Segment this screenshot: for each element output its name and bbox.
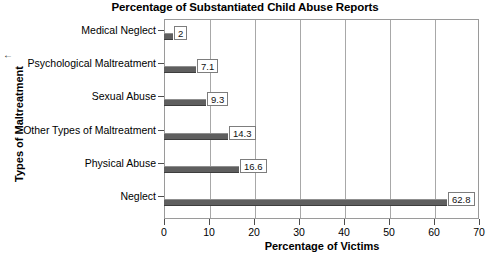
x-axis-tick bbox=[344, 219, 345, 225]
x-axis-tick-label: 50 bbox=[374, 226, 404, 238]
y-axis-category-label: Physical Abuse bbox=[85, 157, 156, 170]
y-axis-tick bbox=[158, 96, 164, 97]
bar-value-label: 2 bbox=[174, 26, 187, 40]
y-axis-tick bbox=[158, 130, 164, 131]
bars-layer: 27.19.314.316.662.8 bbox=[164, 19, 480, 219]
stray-arrow-icon: ← bbox=[3, 50, 13, 60]
x-axis-tick-label: 70 bbox=[464, 226, 490, 238]
y-axis-tick bbox=[158, 63, 164, 64]
bar-value-label: 62.8 bbox=[448, 192, 475, 206]
y-axis-category-label: Medical Neglect bbox=[81, 24, 156, 37]
x-axis-tick-label: 0 bbox=[149, 226, 179, 238]
bar-value-label: 14.3 bbox=[229, 126, 256, 140]
bar bbox=[164, 99, 206, 106]
bar-row: 7.1 bbox=[164, 55, 480, 83]
x-axis-tick-label: 60 bbox=[419, 226, 449, 238]
x-axis-tick bbox=[254, 219, 255, 225]
bar-row: 2 bbox=[164, 22, 480, 50]
bar-row: 9.3 bbox=[164, 88, 480, 116]
x-axis-tick bbox=[164, 219, 165, 225]
x-axis-title: Percentage of Victims bbox=[164, 240, 480, 252]
y-axis-category-label: Neglect bbox=[120, 190, 156, 203]
x-axis-tick-label: 40 bbox=[329, 226, 359, 238]
bar-value-label: 16.6 bbox=[240, 159, 267, 173]
x-axis-tick-label: 30 bbox=[284, 226, 314, 238]
y-axis-tick bbox=[158, 30, 164, 31]
y-axis-tick bbox=[158, 196, 164, 197]
y-axis-tick bbox=[158, 163, 164, 164]
y-axis-category-label: Sexual Abuse bbox=[92, 90, 156, 103]
bar-value-label: 7.1 bbox=[197, 59, 218, 73]
x-axis-tick bbox=[299, 219, 300, 225]
bar bbox=[164, 133, 228, 140]
bar bbox=[164, 33, 173, 40]
bar bbox=[164, 66, 196, 73]
bar-row: 14.3 bbox=[164, 122, 480, 150]
bar-row: 16.6 bbox=[164, 155, 480, 183]
y-axis-category-label: Other Types of Maltreatment bbox=[23, 124, 156, 137]
bar-row: 62.8 bbox=[164, 188, 480, 216]
x-axis-tick bbox=[434, 219, 435, 225]
chart-container: Percentage of Substantiated Child Abuse … bbox=[0, 0, 490, 266]
bar-value-label: 9.3 bbox=[207, 92, 228, 106]
bar bbox=[164, 199, 447, 206]
x-axis-tick bbox=[389, 219, 390, 225]
x-axis-tick-label: 20 bbox=[239, 226, 269, 238]
x-axis-tick-label: 10 bbox=[194, 226, 224, 238]
x-axis-tick bbox=[479, 219, 480, 225]
y-axis-category-label: Psychological Maltreatment bbox=[28, 57, 156, 70]
x-axis-tick bbox=[209, 219, 210, 225]
chart-title: Percentage of Substantiated Child Abuse … bbox=[0, 1, 490, 13]
bar bbox=[164, 166, 239, 173]
